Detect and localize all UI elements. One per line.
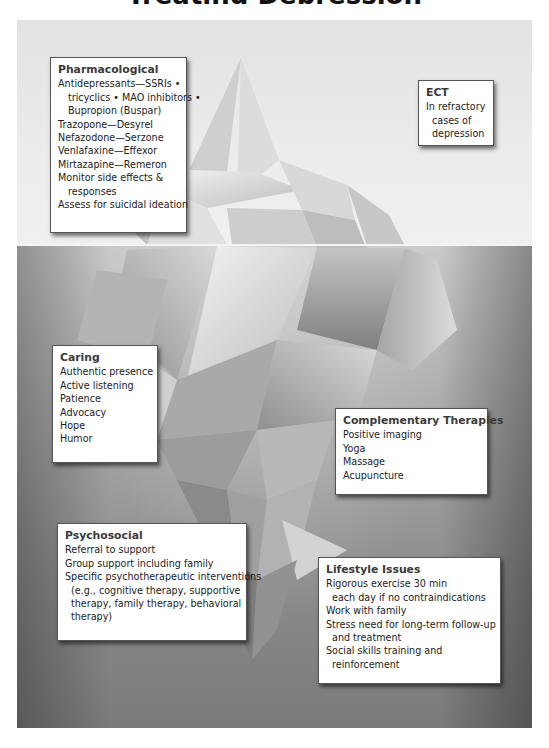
complementary-therapies-heading: Complementary Therapies [343, 414, 480, 427]
psychosocial-box: Psychosocial Referral to support Group s… [57, 523, 247, 641]
list-item: Trazopone—Desyrel [58, 118, 179, 131]
water-line [17, 244, 532, 246]
lifestyle-issues-box: Lifestyle Issues Rigorous exercise 30 mi… [318, 557, 501, 684]
caring-heading: Caring [60, 351, 150, 364]
list-item: responses [58, 185, 179, 198]
list-item: and treatment [326, 631, 493, 644]
list-item: therapy, family therapy, behavioral [65, 597, 239, 610]
list-item: Yoga [343, 442, 480, 455]
list-item: depression [426, 127, 486, 140]
list-item: Social skills training and [326, 644, 493, 657]
list-item: Hope [60, 419, 150, 432]
list-item: Group support including family [65, 557, 239, 570]
list-item: Mirtazapine—Remeron [58, 158, 179, 171]
list-item: Specific psychotherapeutic interventions [65, 570, 239, 583]
pharmacological-heading: Pharmacological [58, 63, 179, 76]
caring-box: Caring Authentic presence Active listeni… [52, 345, 158, 463]
ect-heading: ECT [426, 86, 486, 99]
list-item: Antidepressants—SSRIs • [58, 77, 179, 90]
list-item: Nefazodone—Serzone [58, 131, 179, 144]
ect-box: ECT In refractory cases of depression [418, 80, 494, 146]
list-item: cases of [426, 114, 486, 127]
list-item: Massage [343, 455, 480, 468]
list-item: Referral to support [65, 543, 239, 556]
list-item: Authentic presence [60, 365, 150, 378]
list-item: Active listening [60, 379, 150, 392]
list-item: Monitor side effects & [58, 171, 179, 184]
list-item: each day if no contraindications [326, 591, 493, 604]
list-item: Advocacy [60, 406, 150, 419]
list-item: Humor [60, 432, 150, 445]
complementary-therapies-box: Complementary Therapies Positive imaging… [335, 408, 488, 495]
list-item: Rigorous exercise 30 min [326, 577, 493, 590]
list-item: Work with family [326, 604, 493, 617]
list-item: Acupuncture [343, 469, 480, 482]
list-item: Positive imaging [343, 428, 480, 441]
list-item: Venlafaxine—Effexor [58, 144, 179, 157]
page-title-cropped: Treating Depression [0, 0, 549, 4]
list-item: (e.g., cognitive therapy, supportive [65, 584, 239, 597]
list-item: tricyclics • MAO inhibitors • [58, 91, 179, 104]
lifestyle-issues-heading: Lifestyle Issues [326, 563, 493, 576]
psychosocial-heading: Psychosocial [65, 529, 239, 542]
list-item: therapy) [65, 610, 239, 623]
pharmacological-box: Pharmacological Antidepressants—SSRIs • … [50, 57, 187, 233]
list-item: reinforcement [326, 658, 493, 671]
list-item: Patience [60, 392, 150, 405]
list-item: Bupropion (Buspar) [58, 104, 179, 117]
list-item: Stress need for long-term follow-up [326, 618, 493, 631]
list-item: In refractory [426, 100, 486, 113]
list-item: Assess for suicidal ideation [58, 198, 179, 211]
